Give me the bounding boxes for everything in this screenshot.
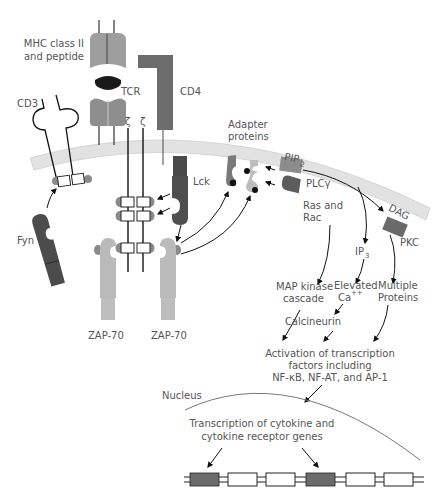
tcr xyxy=(90,98,126,145)
peptide xyxy=(95,76,121,90)
ras-label-2: Rac xyxy=(303,212,321,223)
map-label-1: MAP kinase xyxy=(276,281,333,292)
zap70-left xyxy=(94,238,116,320)
gene-exon-2 xyxy=(228,473,257,486)
zeta-label-1: ζ xyxy=(125,116,130,127)
cd3 xyxy=(33,95,78,185)
gene-exon-1 xyxy=(190,473,219,486)
pkc-label: PKC xyxy=(400,237,419,248)
cd3-itams xyxy=(52,173,92,187)
svg-text:3: 3 xyxy=(365,252,369,260)
plc-label: PLCγ xyxy=(306,178,331,189)
cd4-label: CD4 xyxy=(180,86,201,97)
activation-label-1: Activation of transcription xyxy=(265,348,395,359)
transcription-label-1: Transcription of cytokine and xyxy=(189,418,335,429)
zeta-itams xyxy=(116,197,155,253)
calcineurin-label: Calcineurin xyxy=(285,316,341,327)
ip3-label: IP 3 xyxy=(355,246,369,260)
svg-text:Ca: Ca xyxy=(338,292,351,303)
tcr-signaling-diagram: MHC class II and peptide TCR CD4 CD3 ζ ζ… xyxy=(0,0,440,499)
activation-label-3: NF-κB, NF-AT, and AP-1 xyxy=(272,372,388,383)
transcription-label-2: cytokine receptor genes xyxy=(201,431,322,442)
gene-exon-5 xyxy=(346,473,375,486)
gene-exon-4 xyxy=(306,473,335,486)
mhc-label-1: MHC class II xyxy=(24,38,84,49)
lck xyxy=(172,156,188,225)
nucleus-label: Nucleus xyxy=(162,390,202,401)
activation-label-2: factors including xyxy=(288,360,371,371)
gene-dna xyxy=(184,473,424,486)
gene-exon-3 xyxy=(266,473,295,486)
adapter-label-1: Adapter xyxy=(228,119,269,130)
svg-text:++: ++ xyxy=(351,289,363,297)
multiple-label-2: Proteins xyxy=(378,292,418,303)
mhc-class-ii xyxy=(90,20,126,68)
adapter-protein-1 xyxy=(226,155,236,186)
map-label-2: cascade xyxy=(283,293,324,304)
adapter-protein-2 xyxy=(244,160,258,193)
zap70-right-label: ZAP-70 xyxy=(151,330,187,341)
lck-label: Lck xyxy=(193,176,210,187)
mhc-label-2: and peptide xyxy=(24,51,84,62)
zap70-right xyxy=(160,238,181,320)
fyn-label: Fyn xyxy=(17,235,34,246)
ca-label-2: Ca ++ xyxy=(338,289,363,303)
fyn xyxy=(31,212,65,287)
gene-exon-6 xyxy=(384,473,413,486)
ras-rac xyxy=(281,175,301,193)
ras-label-1: Ras and xyxy=(303,200,343,211)
svg-text:IP: IP xyxy=(355,246,364,257)
tcr-label: TCR xyxy=(120,86,141,97)
zap70-left-label: ZAP-70 xyxy=(88,330,124,341)
multiple-label-1: Multiple xyxy=(378,280,418,291)
adapter-label-2: proteins xyxy=(228,131,269,142)
zeta-label-2: ζ xyxy=(140,116,145,127)
cd3-label: CD3 xyxy=(17,98,38,109)
